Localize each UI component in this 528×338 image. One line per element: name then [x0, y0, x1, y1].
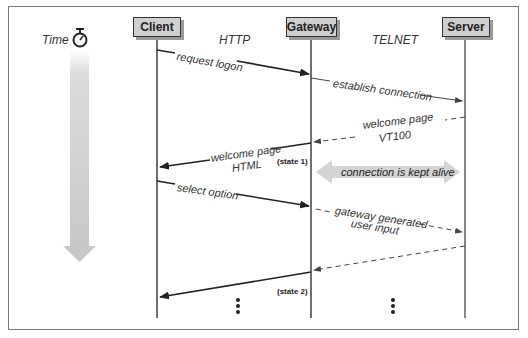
state-2-label: (state 2) — [277, 287, 308, 296]
stopwatch-icon — [74, 29, 87, 47]
sequence-diagram: Time Client Gateway Server HTTP TELNET r… — [0, 0, 528, 338]
protocol-http: HTTP — [219, 33, 250, 47]
actor-server: Server — [442, 17, 490, 37]
continuation-dots-server — [391, 298, 395, 314]
state-1-label: (state 1) — [277, 157, 308, 166]
protocol-telnet: TELNET — [372, 33, 418, 47]
time-arrow — [63, 50, 96, 262]
actor-client: Client — [133, 17, 181, 37]
message-server-response — [314, 246, 465, 270]
time-label: Time — [42, 33, 69, 47]
actor-gateway: Gateway — [286, 17, 337, 37]
continuation-dots-client — [236, 298, 240, 314]
keepalive-label: connection is kept alive — [341, 166, 455, 178]
